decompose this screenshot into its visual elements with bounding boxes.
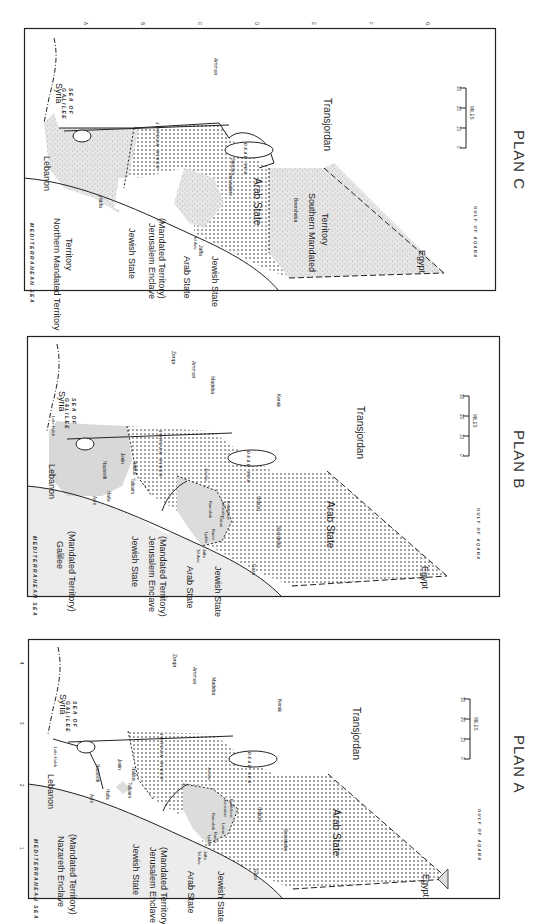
label-mediterranean: MEDITERRANEAN SEA	[29, 223, 35, 304]
label-ramle: Ramle	[211, 529, 216, 541]
plan-a-title: PLAN A	[511, 735, 528, 794]
label-lake-huleh: Lake Huleh	[53, 747, 58, 767]
label-egypt: Egypt	[421, 874, 431, 898]
map-panel-plan-c: Syria SEA OF GALILEE Lebanon MEDITERRANE…	[24, 28, 496, 291]
scale-tick-30: 30	[459, 394, 464, 400]
scale-tick-20: 20	[459, 414, 464, 420]
scale-tick-0: 0	[456, 146, 461, 149]
scale-tick-0: 0	[459, 454, 464, 457]
label-jericho: Jericho	[207, 767, 212, 781]
label-arab-state-west: Arab State	[182, 256, 192, 299]
label-jewish-state-south: Jewish State	[210, 256, 220, 307]
scale-tick-20: 20	[460, 717, 465, 723]
label-egypt: Egypt	[417, 250, 427, 274]
label-jenin: Jenin	[117, 759, 122, 770]
label-zerqa: Zerqa	[172, 654, 178, 667]
label-transjordan: Transjordan	[351, 707, 362, 760]
label-sea-of-galilee-2: GALILEE	[64, 398, 70, 430]
label-haifa: Haifa	[105, 789, 110, 800]
scale-tick-30: 30	[456, 86, 461, 92]
label-ramallah: Ramallah	[211, 813, 216, 830]
label-amman: Ammon	[213, 58, 219, 75]
scale-tick-30: 30	[460, 697, 465, 703]
scale-bar	[460, 88, 466, 148]
label-sea-of-galilee-1: SEA OF	[72, 701, 78, 728]
scale-unit: MILES	[472, 414, 477, 428]
label-southern-territory-2: Territory	[320, 213, 330, 246]
scale-tick-20: 20	[456, 106, 461, 112]
label-jewish-state: Jewish State	[131, 844, 141, 895]
map-panel-plan-a: Syria SEA OF GALILEE Lake Huleh Lebanon …	[28, 639, 500, 899]
label-galilee: Galilee	[55, 541, 65, 569]
label-sea-of-galilee-1: SEA OF	[71, 398, 77, 425]
label-nablus: Nablus	[131, 767, 136, 782]
grid-col-d: D	[254, 22, 259, 26]
label-jaffa: Jaffa	[202, 549, 207, 558]
plan-c-title: PLAN C	[511, 130, 528, 190]
label-beersheba: Beersheba	[276, 526, 281, 548]
label-sea-of-galilee-2: GALILEE	[65, 701, 71, 733]
plan-a-map: Syria SEA OF GALILEE Lake Huleh Lebanon …	[28, 639, 500, 899]
label-nazareth: Nazareth	[95, 764, 100, 783]
label-bethlehem: Bethlehem	[229, 799, 234, 819]
grid-row-4: 4	[19, 662, 24, 665]
label-arab-state-main: Arab State	[331, 809, 342, 857]
label-tulkarm: Tulkarm	[130, 478, 135, 494]
label-jerusalem-enclave-sub: (Mandated Territory)	[159, 847, 169, 924]
label-jericho: Jericho	[230, 158, 236, 174]
label-arab-state-main: Arab State	[325, 501, 336, 549]
label-latrun: Latrun	[221, 823, 226, 834]
label-sea-of-galilee-2: GALILEE	[61, 88, 67, 120]
scale-tick-10: 10	[460, 737, 465, 743]
label-tel-aviv: Tel Aviv	[197, 851, 202, 865]
label-lydda: Lydda	[207, 835, 212, 847]
label-lebanon: Lebanon	[47, 464, 57, 499]
label-jerusalem-enclave: Jerusalem Enclave	[148, 847, 158, 923]
grid-col-f: F	[368, 22, 373, 25]
label-bethlehem: Bethlehem	[226, 501, 231, 521]
grid-col-g: G	[425, 22, 430, 26]
label-north-territory: Northern Mandated Territory	[52, 218, 62, 331]
label-arab-state-west: Arab State	[185, 566, 195, 609]
label-transjordan: Transjordan	[355, 406, 366, 459]
label-arab-state-west: Arab State	[186, 871, 196, 914]
grid-row-2: 2	[19, 784, 24, 787]
label-dead-sea: DEAD SEA	[247, 752, 252, 785]
label-transjordan: Transjordan	[322, 98, 333, 151]
label-southern-territory: Southern Mandated	[307, 193, 317, 272]
label-gaza: Gaza	[253, 869, 258, 880]
scale-unit: MILES	[469, 106, 474, 120]
label-gulf-of-aqaba: GULF OF AQABA	[477, 809, 482, 862]
grid-col-c: C	[197, 22, 202, 26]
label-mediterranean: MEDITERRANEAN SEA	[32, 536, 38, 617]
label-dead-sea: DEAD SEA	[246, 451, 251, 484]
label-lebanon: Lebanon	[46, 774, 56, 809]
grid-row-1: 1	[19, 847, 24, 850]
scale-bar	[464, 699, 470, 759]
label-jerusalem-enclave-sub: (Mandated Territory)	[158, 536, 168, 617]
label-zerqa: Zerqa	[171, 351, 177, 364]
plan-b-title: PLAN B	[511, 430, 528, 489]
label-dead-sea: DEAD SEA	[243, 143, 248, 176]
label-lake-huleh: Lake Huleh	[51, 416, 56, 436]
label-mediterranean: MEDITERRANEAN SEA	[33, 839, 39, 920]
plan-b-map: Syria SEA OF GALILEE Lake Huleh Lebanon …	[27, 336, 500, 597]
label-nazareth-enclave-sub: (Mandated Territory)	[68, 834, 78, 915]
label-jenin: Jenin	[120, 453, 125, 464]
label-tel-aviv: Tel Aviv	[196, 549, 201, 563]
label-jerusalem-enclave: Jerusalem Enclave	[147, 536, 157, 612]
label-lebanon: Lebanon	[42, 156, 52, 191]
label-jericho: Jericho	[204, 468, 209, 482]
label-amman: Ammon	[191, 361, 197, 378]
label-egypt: Egypt	[420, 566, 430, 590]
label-ramallah: Ramallah	[208, 501, 213, 518]
label-nazareth: Nazareth	[102, 461, 107, 480]
scale-unit: MILES	[473, 717, 478, 731]
label-madeba: Madeba	[210, 376, 216, 394]
label-jerusalem: Jerusalem	[221, 501, 226, 520]
scale-tick-10: 10	[459, 434, 464, 440]
scale-tick-0: 0	[460, 757, 465, 760]
plan-c-map: Syria SEA OF GALILEE Lebanon MEDITERRANE…	[24, 28, 496, 291]
label-ramle: Ramle	[213, 832, 218, 844]
label-lydda: Lydda	[204, 532, 209, 544]
